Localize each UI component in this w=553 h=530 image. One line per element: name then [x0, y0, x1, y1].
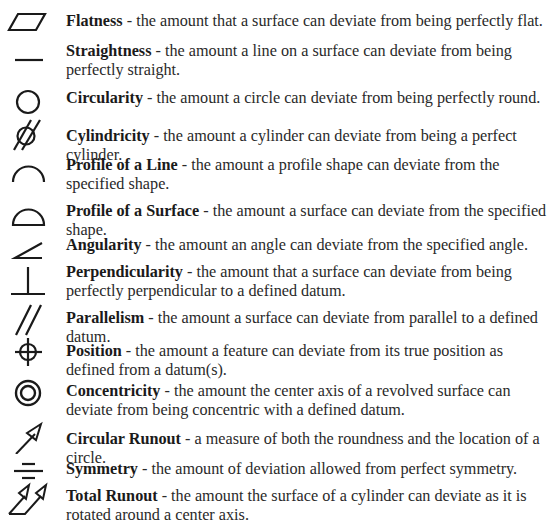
total-runout-icon — [2, 481, 50, 515]
item-term: Parallelism — [66, 309, 144, 327]
item-description: the amount an angle can deviate from the… — [155, 236, 528, 254]
profile-of-a-line-icon — [2, 156, 50, 190]
item-text: Angularity - the amount an angle can dev… — [66, 236, 550, 255]
straightness-icon — [2, 42, 50, 76]
circularity-icon — [2, 83, 50, 117]
item-term: Perpendicularity — [66, 263, 183, 281]
item-term: Angularity — [66, 236, 142, 254]
item-term: Concentricity — [66, 382, 160, 400]
item-text: Symmetry - the amount of deviation allow… — [66, 460, 550, 479]
position-icon — [2, 333, 50, 367]
item-text: Profile of a Surface - the amount a surf… — [66, 202, 550, 240]
item-term: Position — [66, 342, 122, 360]
flatness-icon — [2, 10, 50, 44]
item-text: Flatness - the amount that a surface can… — [66, 12, 550, 31]
item-description: the amount of deviation allowed from per… — [151, 460, 517, 478]
item-term: Total Runout — [66, 487, 158, 505]
item-text: Position - the amount a feature can devi… — [66, 342, 550, 380]
item-text: Total Runout - the amount the surface of… — [66, 487, 550, 525]
item-term: Flatness — [66, 12, 123, 30]
item-text: Profile of a Line - the amount a profile… — [66, 156, 550, 194]
item-term: Profile of a Surface — [66, 202, 199, 220]
item-term: Circular Runout — [66, 430, 181, 448]
item-term: Symmetry — [66, 460, 138, 478]
parallelism-icon — [2, 302, 50, 336]
item-term: Cylindricity — [66, 127, 150, 145]
item-term: Profile of a Line — [66, 156, 178, 174]
item-term: Circularity — [66, 89, 143, 107]
cylindricity-icon — [2, 117, 50, 151]
item-description: the amount that a surface can deviate fr… — [136, 12, 543, 30]
item-text: Perpendicularity - the amount that a sur… — [66, 263, 550, 301]
perpendicularity-icon — [2, 265, 50, 299]
item-description: the amount a circle can deviate from bei… — [157, 89, 541, 107]
item-term: Straightness — [66, 42, 151, 60]
concentricity-icon — [2, 376, 50, 410]
item-text: Straightness - the amount a line on a su… — [66, 42, 550, 80]
item-text: Concentricity - the amount the center ax… — [66, 382, 550, 420]
item-text: Circularity - the amount a circle can de… — [66, 89, 550, 108]
profile-of-a-surface-icon — [2, 195, 50, 229]
circular-runout-icon — [2, 420, 50, 454]
angularity-icon — [2, 232, 50, 266]
